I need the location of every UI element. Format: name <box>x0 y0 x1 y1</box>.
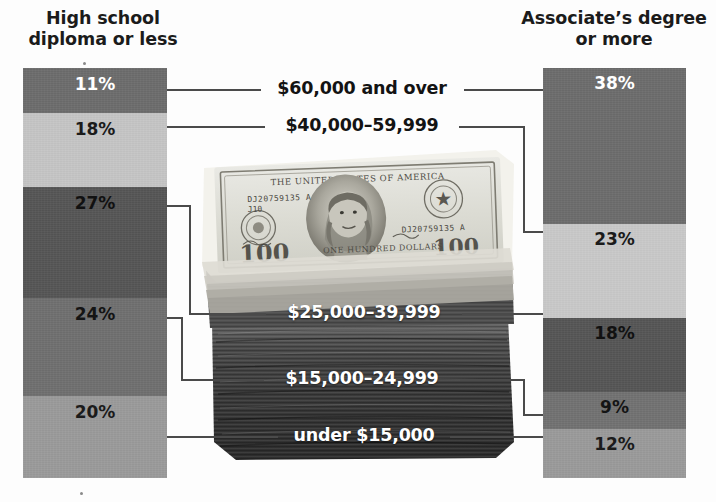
column-heading-left: High school diploma or less <box>8 8 198 49</box>
svg-text:★: ★ <box>436 189 453 210</box>
bill-serial-left-sub: J10 <box>248 205 263 215</box>
segment-value-label: 18% <box>543 323 686 343</box>
segment-value-label: 23% <box>543 229 686 249</box>
category-label: $40,000–59,999 <box>4 115 716 135</box>
category-label: $15,000–24,999 <box>4 368 716 388</box>
segment-value-label: 27% <box>23 193 167 213</box>
category-label: under $15,000 <box>6 425 716 445</box>
category-label: $25,000–39,999 <box>6 302 716 322</box>
income-by-education-infographic: High school diploma or less Associate’s … <box>0 0 716 502</box>
registration-dot-bottom <box>80 492 83 495</box>
column-heading-right: Associate’s degree or more <box>516 8 712 49</box>
bar-segment: 9% <box>543 392 686 429</box>
segment-value-label: 9% <box>543 397 686 417</box>
registration-dot-top <box>83 62 86 65</box>
segment-value-label: 20% <box>23 402 167 422</box>
top-bill: THE UNITED STATES OF AMERICA <box>202 150 514 314</box>
category-label: $60,000 and over <box>4 78 716 98</box>
bar-segment: 27% <box>23 187 167 298</box>
